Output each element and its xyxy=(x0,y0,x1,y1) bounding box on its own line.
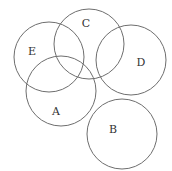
venn-svg: ECDAB xyxy=(0,0,172,171)
set-label-b: B xyxy=(109,123,117,136)
set-circle-d xyxy=(96,25,166,95)
venn-diagram: ECDAB xyxy=(0,0,172,171)
set-circle-e xyxy=(14,22,84,92)
set-label-d: D xyxy=(137,56,146,69)
set-circle-b xyxy=(87,99,157,169)
set-label-e: E xyxy=(28,45,36,58)
set-circle-a xyxy=(26,56,96,126)
set-label-a: A xyxy=(51,105,61,118)
set-label-c: C xyxy=(82,17,90,30)
